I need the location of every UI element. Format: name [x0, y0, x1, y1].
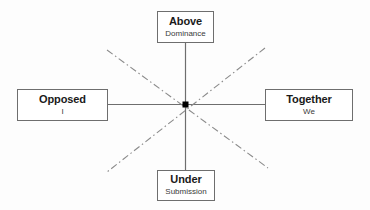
node-under-primary-label: Under [170, 173, 201, 186]
node-opposed-secondary-label: I [61, 107, 63, 117]
node-above-primary-label: Above [169, 15, 202, 28]
node-above-secondary-label: Dominance [165, 29, 205, 39]
node-under[interactable]: Under Submission [157, 170, 215, 201]
node-together-primary-label: Together [286, 93, 331, 106]
center-dot [183, 102, 189, 108]
node-opposed-primary-label: Opposed [39, 93, 86, 106]
node-opposed[interactable]: Opposed I [17, 89, 108, 121]
node-under-secondary-label: Submission [165, 187, 206, 197]
diagonal-nw-se-line [107, 50, 268, 168]
node-above[interactable]: Above Dominance [157, 11, 214, 43]
node-together-secondary-label: We [303, 107, 315, 117]
interpersonal-axis-diagram: Above Dominance Opposed I Together We Un… [0, 0, 370, 210]
node-together[interactable]: Together We [265, 89, 353, 121]
